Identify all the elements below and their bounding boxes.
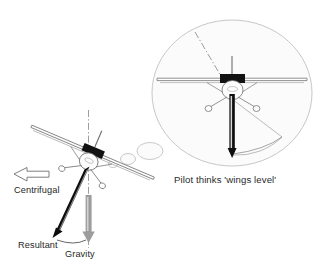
- resultant-force-arrow: [53, 167, 90, 239]
- banked-aircraft-group: Centrifugal Resultant Gravity: [14, 105, 163, 259]
- gravity-force-arrow: [82, 195, 94, 243]
- gravity-label: Gravity: [65, 249, 95, 259]
- thought-bubble-tail-medium: [121, 154, 136, 165]
- bubble-caption: Pilot thinks 'wings level': [174, 174, 276, 185]
- force-diagram-figure: Pilot thinks 'wings level': [0, 0, 328, 271]
- resultant-gravity-angle-arc: [57, 240, 86, 243]
- resultant-label: Resultant: [18, 240, 58, 250]
- thought-bubble-tail-large: [137, 143, 163, 160]
- centrifugal-force-arrow: [14, 168, 49, 182]
- centrifugal-label: Centrifugal: [14, 185, 60, 195]
- thought-bubble-group: [109, 20, 313, 168]
- diagram-canvas: Pilot thinks 'wings level': [0, 0, 328, 271]
